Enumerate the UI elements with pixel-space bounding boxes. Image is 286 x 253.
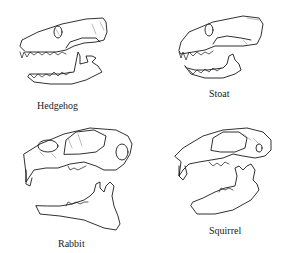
panel-hedgehog: Hedgehog	[0, 0, 143, 126]
label-rabbit: Rabbit	[58, 238, 85, 249]
panel-squirrel: Squirrel	[143, 126, 286, 253]
label-squirrel: Squirrel	[209, 225, 241, 236]
panel-stoat: Stoat	[143, 0, 286, 126]
rabbit-skull-illustration	[0, 126, 143, 253]
label-hedgehog: Hedgehog	[37, 100, 78, 111]
label-stoat: Stoat	[209, 88, 230, 99]
panel-rabbit: Rabbit	[0, 126, 143, 253]
stoat-skull-illustration	[143, 0, 286, 126]
